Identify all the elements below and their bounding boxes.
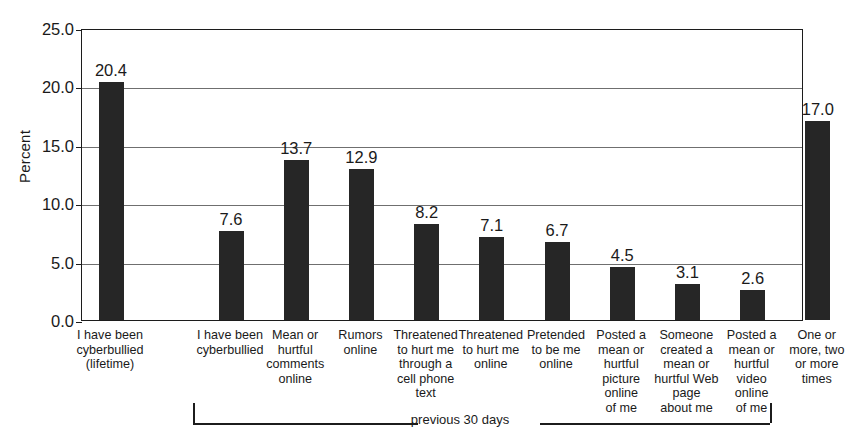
bar: [219, 231, 244, 320]
x-axis-category-label: Someonecreated amean orhurtful Webpageab…: [646, 328, 726, 416]
gridline: [82, 88, 802, 89]
category-label-line: picture: [589, 372, 653, 387]
category-label-line: cell phone: [389, 372, 463, 387]
y-axis-tick-label: 5.0: [28, 255, 74, 272]
category-label-line: Posted a: [720, 328, 784, 343]
y-axis-tick-labels: 0.05.010.015.020.025.0: [22, 0, 74, 446]
category-label-line: of me: [720, 401, 784, 416]
bar-value-label: 7.6: [201, 211, 261, 228]
category-label-line: through a: [389, 357, 463, 372]
x-axis-category-label: Posted amean orhurtfulpictureonlineof me: [589, 328, 653, 416]
bar-value-label: 13.7: [266, 140, 326, 157]
bar-value-label: 17.0: [788, 101, 848, 118]
x-axis-category-label: One ormore, twoor moretimes: [782, 328, 849, 386]
category-label-line: online: [454, 357, 528, 372]
category-label-line: to hurt me: [389, 343, 463, 358]
category-label-line: mean or: [589, 343, 653, 358]
category-label-line: or more: [782, 357, 849, 372]
category-label-line: Threatened: [454, 328, 528, 343]
category-label-line: hurtful: [589, 357, 653, 372]
category-label-line: about me: [646, 401, 726, 416]
category-label-line: comments: [259, 357, 331, 372]
category-label-line: to be me: [520, 343, 592, 358]
category-label-line: Pretended: [520, 328, 592, 343]
bar: [479, 237, 504, 320]
bar-value-label: 6.7: [527, 222, 587, 239]
bar: [545, 242, 570, 320]
bar-value-label: 12.9: [331, 149, 391, 166]
category-label-line: more, two: [782, 343, 849, 358]
bracket-line: [193, 423, 418, 425]
y-axis-tick-label: 15.0: [28, 138, 74, 155]
category-label-line: Posted a: [589, 328, 653, 343]
bar: [349, 169, 374, 320]
category-label-line: online: [329, 343, 391, 358]
category-label-line: of me: [589, 401, 653, 416]
category-label-line: hurtful: [259, 343, 331, 358]
category-label-line: online: [589, 386, 653, 401]
bar-value-label: 7.1: [462, 217, 522, 234]
bar-value-label: 4.5: [592, 247, 652, 264]
category-label-line: page: [646, 386, 726, 401]
y-axis-tick-label: 20.0: [28, 79, 74, 96]
y-axis-tick-label: 10.0: [28, 196, 74, 213]
category-label-line: Mean or: [259, 328, 331, 343]
category-label-line: Someone: [646, 328, 726, 343]
category-label-line: cyberbullied: [58, 343, 162, 358]
category-label-line: (lifetime): [58, 357, 162, 372]
category-label-line: I have been: [58, 328, 162, 343]
bar: [805, 121, 830, 320]
x-axis-category-label: Mean orhurtfulcommentsonline: [259, 328, 331, 386]
category-label-line: Rumors: [329, 328, 391, 343]
x-axis-category-label: Pretendedto be meonline: [520, 328, 592, 372]
bar: [284, 160, 309, 320]
bar: [675, 284, 700, 320]
category-label-line: hurtful: [720, 357, 784, 372]
x-axis-category-label: Threatenedto hurt methrough acell phonet…: [389, 328, 463, 401]
plot-area: 20.47.613.712.98.27.16.74.53.12.617.0: [81, 29, 803, 321]
bar-value-label: 8.2: [397, 204, 457, 221]
bracket-end-cap: [193, 403, 195, 423]
category-label-line: hurtful Web: [646, 372, 726, 387]
x-axis-category-label: Threatenedto hurt meonline: [454, 328, 528, 372]
bar: [740, 290, 765, 320]
bar-value-label: 3.1: [657, 264, 717, 281]
category-label-line: to hurt me: [454, 343, 528, 358]
category-label-line: times: [782, 372, 849, 387]
x-axis-category-label: Rumorsonline: [329, 328, 391, 357]
category-label-line: Threatened: [389, 328, 463, 343]
x-axis-category-label: Posted amean orhurtfulvideoonlineof me: [720, 328, 784, 416]
bar: [610, 267, 635, 320]
bar-value-label: 2.6: [723, 270, 783, 287]
gridline: [82, 147, 802, 148]
category-label-line: mean or: [646, 357, 726, 372]
category-label-line: online: [259, 372, 331, 387]
bar: [99, 82, 124, 320]
bracket-line: [540, 423, 770, 425]
bar: [414, 224, 439, 320]
category-label-line: created a: [646, 343, 726, 358]
category-label-line: text: [389, 386, 463, 401]
y-axis-tick-mark: [76, 322, 82, 323]
bracket-label: previous 30 days: [380, 412, 540, 427]
category-label-line: One or: [782, 328, 849, 343]
category-label-line: mean or: [720, 343, 784, 358]
bar-value-label: 20.4: [81, 62, 141, 79]
category-label-line: online: [520, 357, 592, 372]
category-label-line: online: [720, 386, 784, 401]
category-label-line: video: [720, 372, 784, 387]
y-axis-tick-label: 25.0: [28, 21, 74, 38]
x-axis-category-label: I have beencyberbullied(lifetime): [58, 328, 162, 372]
y-axis-tick-mark: [76, 30, 82, 31]
